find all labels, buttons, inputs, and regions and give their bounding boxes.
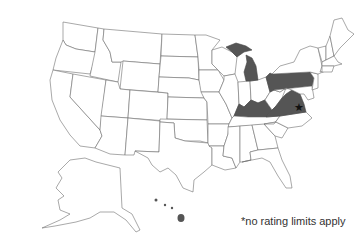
star-marker-icon: ★ (294, 101, 304, 114)
state-colorado (128, 90, 168, 121)
state-connecticut (322, 66, 334, 72)
us-map: ★ (0, 0, 364, 246)
state-michigan-highlighted (244, 55, 258, 81)
state-kansas (167, 97, 207, 120)
state-alaska (42, 158, 140, 232)
state-south-dakota (159, 56, 199, 80)
state-wyoming (120, 61, 160, 92)
state-maine (330, 18, 354, 56)
footnote-text: *no rating limits apply (241, 215, 346, 227)
state-north-dakota (161, 34, 198, 57)
state-hawaii-highlighted (155, 199, 185, 223)
state-new-mexico (125, 118, 160, 155)
state-montana (103, 29, 162, 64)
us-map-figure: ★ *no rating limits apply (0, 0, 364, 246)
